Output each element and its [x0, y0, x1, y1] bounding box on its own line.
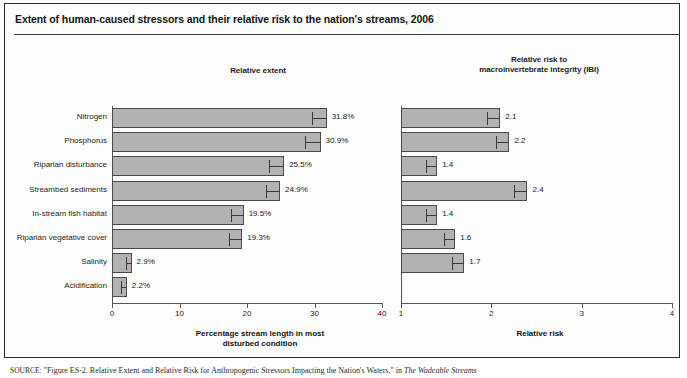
bar-value-label: 2.9% [137, 257, 155, 266]
chart-relative-extent: 01020304031.8%30.9%25.5%24.9%19.5%19.3%2… [112, 106, 382, 303]
bar-value-label: 19.5% [249, 209, 272, 218]
x-axis-tick [401, 304, 402, 308]
source-prefix: SOURCE: [10, 366, 42, 375]
bar-value-label: 1.6 [460, 233, 471, 242]
x-axis-title-left: Percentage stream length in most disturb… [150, 329, 370, 349]
bar [112, 156, 284, 176]
x-axis-tick [247, 304, 248, 308]
chart-relative-risk: 12342.12.21.42.41.41.61.7 [401, 106, 672, 303]
error-bar-cap [305, 136, 306, 149]
figure-page: Extent of human-caused stressors and the… [0, 0, 687, 378]
bar-value-label: 30.9% [326, 136, 349, 145]
source-in: in [396, 366, 402, 375]
error-bar-cap [487, 112, 488, 125]
x-axis-tick [315, 304, 316, 308]
x-axis-tick-label: 10 [175, 309, 184, 318]
x-axis-tick-label: 2 [489, 309, 493, 318]
category-label: Riparian vegetative cover [17, 233, 107, 242]
error-bar-line [426, 166, 437, 167]
category-label: In-stream fish habitat [32, 209, 107, 218]
x-axis-tick [382, 304, 383, 308]
bar-value-label: 1.4 [442, 209, 453, 218]
x-axis-tick [491, 304, 492, 308]
bar-value-label: 2.2 [514, 136, 525, 145]
category-label: Phosphorus [64, 136, 107, 145]
bar-value-label: 31.8% [332, 112, 355, 121]
panel-heading-right-line2: macroinvertebrate integrity (IBI) [404, 65, 674, 75]
error-bar-cap [496, 136, 497, 149]
error-bar-cap [444, 233, 445, 246]
x-axis-tick-label: 40 [378, 309, 387, 318]
error-bar-line [231, 215, 244, 216]
category-label: Riparian disturbance [34, 160, 107, 169]
error-bar-cap [426, 160, 427, 173]
panel-heading-left: Relative extent [128, 66, 388, 76]
error-bar-line [305, 142, 321, 143]
panel-heading-right-line1: Relative risk to [404, 55, 674, 65]
x-axis-tick [112, 304, 113, 308]
page-title: Extent of human-caused stressors and the… [15, 13, 434, 25]
bar [401, 132, 509, 152]
error-bar-cap [229, 233, 230, 246]
bar [112, 229, 242, 249]
category-label: Acidification [64, 281, 107, 290]
category-label: Streambed sediments [29, 185, 107, 194]
bar [401, 181, 527, 201]
error-bar-line [496, 142, 510, 143]
x-axis-tick [582, 304, 583, 308]
x-axis-tick-label: 20 [243, 309, 252, 318]
panel-heading-right: Relative risk to macroinvertebrate integ… [404, 55, 674, 75]
x-axis-tick-label: 4 [670, 309, 674, 318]
bar [401, 108, 500, 128]
error-bar-cap [266, 185, 267, 198]
x-axis-tick-label: 30 [310, 309, 319, 318]
error-bar-cap [231, 209, 232, 222]
x-axis-tick-label: 3 [579, 309, 583, 318]
error-bar-cap [269, 160, 270, 173]
error-bar-cap [126, 257, 127, 270]
x-axis-title-left-line1: Percentage stream length in most [150, 329, 370, 339]
bar-value-label: 2.4 [532, 185, 543, 194]
x-axis-right [401, 303, 673, 304]
source-quote: "Figure ES-2. Relative Extent and Relati… [44, 366, 394, 375]
error-bar-line [426, 215, 437, 216]
bar-value-label: 2.2% [132, 281, 150, 290]
bar [112, 181, 280, 201]
bar-value-label: 25.5% [289, 160, 312, 169]
error-bar-line [312, 118, 326, 119]
title-divider [14, 34, 680, 35]
error-bar-line [514, 191, 528, 192]
error-bar-cap [452, 257, 453, 270]
error-bar-line [229, 239, 242, 240]
bar-value-label: 2.1 [505, 112, 516, 121]
x-axis-title-right: Relative risk [470, 329, 610, 339]
x-axis-tick-label: 1 [399, 309, 403, 318]
bar [112, 108, 327, 128]
error-bar-line [487, 118, 501, 119]
source-note: SOURCE: "Figure ES-2. Relative Extent an… [10, 366, 680, 375]
x-axis-tick-label: 0 [110, 309, 114, 318]
category-label: Nitrogen [77, 112, 107, 121]
x-axis-tick [180, 304, 181, 308]
bar-value-label: 1.4 [442, 160, 453, 169]
error-bar-line [269, 166, 284, 167]
error-bar-cap [426, 209, 427, 222]
error-bar-cap [312, 112, 313, 125]
bar [112, 205, 244, 225]
source-publication: The Wadeable Streams [404, 366, 477, 375]
error-bar-cap [514, 185, 515, 198]
category-label-column: NitrogenPhosphorusRiparian disturbanceSt… [0, 106, 107, 303]
error-bar-line [452, 263, 464, 264]
bar-value-label: 1.7 [469, 257, 480, 266]
error-bar-line [444, 239, 455, 240]
x-axis-tick [672, 304, 673, 308]
bar-value-label: 24.9% [285, 185, 308, 194]
error-bar-line [266, 191, 280, 192]
x-axis-title-left-line2: disturbed condition [150, 339, 370, 349]
bar [112, 132, 321, 152]
bar-value-label: 19.3% [247, 233, 270, 242]
category-label: Salinity [81, 257, 107, 266]
error-bar-cap [121, 281, 122, 294]
